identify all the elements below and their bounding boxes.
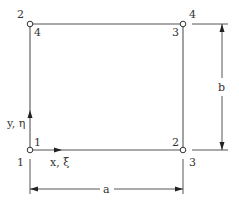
- dim-a-arrow-left-icon: [30, 187, 38, 192]
- node-top-right: [180, 21, 186, 27]
- dim-b-arrow-down-icon: [220, 142, 225, 150]
- dim-a-arrow-right-icon: [175, 187, 183, 192]
- node-bottom-left: [27, 147, 33, 153]
- node-bottom-right: [180, 147, 186, 153]
- x-axis-label: x, ξ: [50, 156, 69, 169]
- global-label-bottom-left: 1: [17, 156, 24, 169]
- local-label-bottom-right: 2: [172, 136, 179, 149]
- node-top-left: [27, 21, 33, 27]
- local-label-top-right: 3: [172, 26, 179, 39]
- element-diagram: 2 4 1 3 4 3 1 2 y, η x, ξ b a: [0, 0, 239, 204]
- global-label-bottom-right: 3: [189, 156, 196, 169]
- dim-b-arrow-up-icon: [220, 24, 225, 32]
- x-axis-arrow-icon: [54, 148, 62, 153]
- dim-a-label: a: [103, 183, 110, 196]
- global-label-top-left: 2: [17, 8, 24, 21]
- local-label-bottom-left: 1: [34, 136, 41, 149]
- global-label-top-right: 4: [189, 8, 196, 21]
- local-label-top-left: 4: [34, 26, 41, 39]
- y-axis-arrow-icon: [28, 110, 33, 118]
- dim-b-label: b: [218, 81, 225, 94]
- y-axis-label: y, η: [6, 117, 25, 130]
